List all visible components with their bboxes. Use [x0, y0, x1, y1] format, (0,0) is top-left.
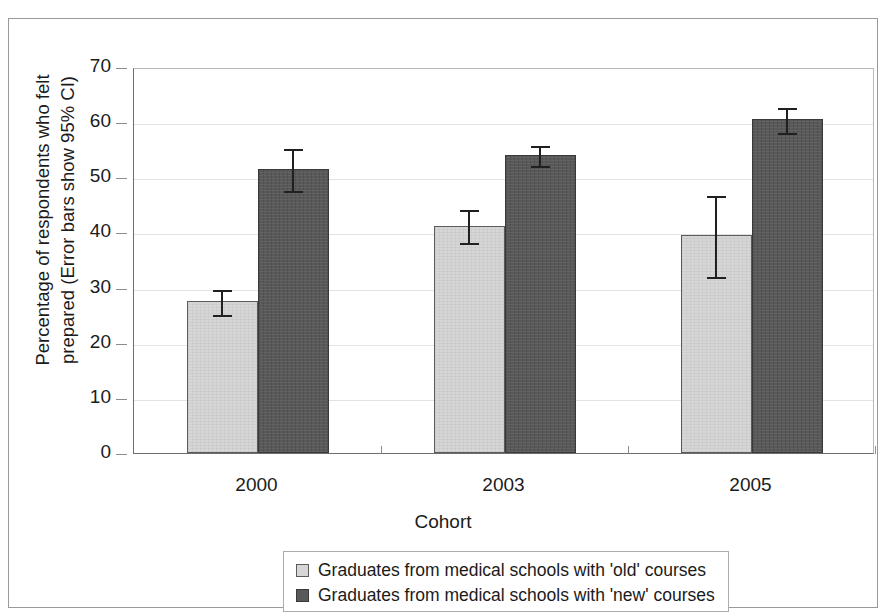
y-axis-tick-mark: [116, 178, 127, 179]
legend-item[interactable]: Graduates from medical schools with 'new…: [296, 583, 728, 608]
error-bar-cap-top: [460, 210, 479, 212]
legend-item-label: Graduates from medical schools with 'old…: [318, 560, 706, 581]
legend-item-label: Graduates from medical schools with 'new…: [318, 585, 715, 606]
error-bar-stem: [468, 210, 470, 246]
error-bar-cap-bottom: [707, 277, 726, 279]
error-bar-stem: [221, 290, 223, 318]
y-axis-title: Percentage of respondents who felt prepa…: [30, 10, 80, 430]
error-bar-stem: [715, 196, 717, 279]
error-bar-cap-top: [213, 290, 232, 292]
error-bar-stem: [292, 149, 294, 193]
x-axis-tick-label: 2003: [380, 474, 627, 496]
y-axis-tick-mark: [116, 233, 127, 234]
bar: [187, 301, 258, 453]
y-axis-tick-mark: [116, 344, 127, 345]
error-bar: [283, 149, 303, 193]
error-bar-cap-top: [284, 149, 303, 151]
y-axis-tick-label: 20: [90, 331, 111, 353]
error-bar-cap-top: [531, 146, 550, 148]
y-axis-tick-label: 40: [90, 220, 111, 242]
x-axis-tick: [628, 446, 629, 454]
y-axis-tick-mark: [116, 454, 127, 455]
legend-swatch-icon: [296, 564, 309, 577]
error-bar-stem: [539, 146, 541, 168]
error-bar-cap-bottom: [778, 133, 797, 135]
error-bar: [530, 146, 550, 168]
chart-legend: Graduates from medical schools with 'old…: [283, 551, 729, 612]
figure-frame: Percentage of respondents who felt prepa…: [8, 18, 878, 608]
bar: [752, 119, 823, 453]
error-bar: [777, 108, 797, 136]
y-axis-tick-mark: [116, 123, 127, 124]
error-bar-cap-bottom: [284, 191, 303, 193]
x-axis-title: Cohort: [9, 511, 877, 533]
error-bar-stem: [786, 108, 788, 136]
x-axis-tick-label: 2000: [133, 474, 380, 496]
y-axis-tick-label: 0: [100, 441, 111, 463]
legend-item[interactable]: Graduates from medical schools with 'old…: [296, 558, 728, 583]
y-axis-tick-label: 10: [90, 386, 111, 408]
y-axis-tick-mark: [116, 399, 127, 400]
y-axis-tick-label: 30: [90, 276, 111, 298]
y-axis-tick-mark: [116, 289, 127, 290]
error-bar-cap-bottom: [460, 243, 479, 245]
plot-area: [133, 68, 874, 454]
error-bar: [459, 210, 479, 246]
error-bar: [212, 290, 232, 318]
y-axis-tick-label: 50: [90, 165, 111, 187]
y-axis-tick-mark: [116, 68, 127, 69]
y-axis-tick-label: 70: [90, 55, 111, 77]
x-axis-tick-label: 2005: [627, 474, 874, 496]
error-bar-cap-top: [707, 196, 726, 198]
error-bar-cap-top: [778, 108, 797, 110]
y-axis-tick-label: 60: [90, 110, 111, 132]
error-bar: [706, 196, 726, 279]
bar: [258, 169, 329, 453]
x-axis-tick: [875, 446, 876, 454]
x-axis-tick: [381, 446, 382, 454]
legend-swatch-icon: [296, 589, 309, 602]
error-bar-cap-bottom: [531, 166, 550, 168]
bar: [505, 155, 576, 453]
error-bar-cap-bottom: [213, 315, 232, 317]
bar: [434, 226, 505, 453]
